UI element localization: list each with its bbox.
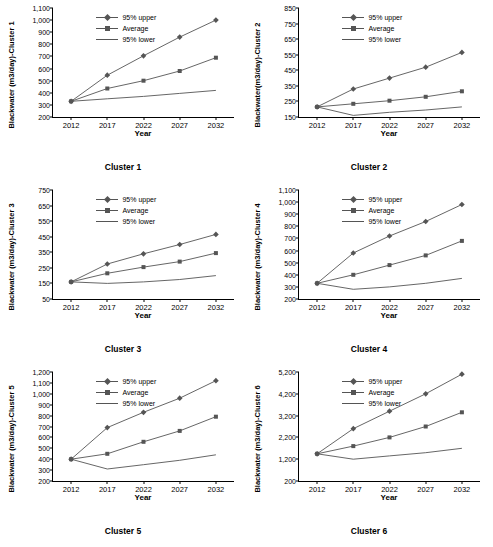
marker-diamond — [459, 371, 465, 377]
series-line-3 — [71, 455, 216, 469]
chart-caption: Cluster 3 — [0, 344, 246, 354]
marker-square — [388, 263, 392, 267]
legend-item: 95% upper — [96, 12, 156, 23]
marker-square — [460, 410, 464, 414]
marker-square — [142, 440, 146, 444]
chart-cell-3: Blackwater (m3/day)-Cluster 3 5015025035… — [0, 182, 246, 364]
marker-diamond — [104, 261, 110, 267]
x-tick-mark — [353, 299, 354, 302]
legend-item: Average — [342, 387, 402, 398]
y-axis-label: Blackwater (m3/day)-Cluster 4 — [252, 188, 264, 326]
marker-diamond — [459, 202, 465, 208]
legend-swatch-diamond-icon — [96, 195, 118, 204]
x-tick-mark — [317, 117, 318, 120]
legend-swatch-square-icon — [96, 388, 118, 397]
legend-item: 95% upper — [342, 376, 402, 387]
legend: 95% upperAverage95% lower — [342, 12, 402, 45]
legend-swatch-diamond-icon — [342, 377, 364, 386]
x-tick-mark — [461, 481, 462, 484]
legend-swatch-square-icon — [342, 206, 364, 215]
marker-square — [214, 251, 218, 255]
x-axis-label: Year — [52, 311, 234, 320]
legend-swatch-square-icon — [96, 206, 118, 215]
x-tick-mark — [71, 481, 72, 484]
x-tick-mark — [179, 299, 180, 302]
legend-label: Average — [122, 23, 148, 34]
series-line-2 — [317, 412, 462, 454]
plot-area: 2003004005006007008009001,0001,100201220… — [52, 8, 234, 118]
x-axis-label: Year — [298, 493, 480, 502]
legend-label: 95% upper — [368, 376, 402, 387]
chart-cell-5: Blackwater (m3/day)-Cluster 5 2003004005… — [0, 364, 246, 546]
legend: 95% upperAverage95% lower — [96, 12, 156, 45]
legend-label: 95% upper — [368, 12, 402, 23]
legend-label: 95% upper — [122, 376, 156, 387]
marker-square — [214, 415, 218, 419]
legend-label: Average — [122, 387, 148, 398]
legend-swatch-diamond-icon — [342, 195, 364, 204]
chart-caption: Cluster 4 — [246, 344, 492, 354]
chart-caption: Cluster 6 — [246, 526, 492, 536]
marker-square — [424, 253, 428, 257]
legend-label: 95% lower — [122, 216, 155, 227]
marker-diamond — [423, 219, 429, 225]
legend-label: Average — [368, 23, 394, 34]
x-tick-mark — [143, 481, 144, 484]
chart-panel-cluster-3: Blackwater (m3/day)-Cluster 3 5015025035… — [6, 188, 238, 326]
chart-cell-6: Blackwater (m3/day)-Cluster 6 2001,2002,… — [246, 364, 492, 546]
legend-item: 95% lower — [96, 216, 156, 227]
x-tick-mark — [461, 299, 462, 302]
legend-swatch-square-icon — [342, 24, 364, 33]
x-tick-mark — [71, 117, 72, 120]
legend-item: 95% lower — [342, 216, 402, 227]
x-tick-mark — [389, 117, 390, 120]
chart-panel-cluster-6: Blackwater (m3/day)-Cluster 6 2001,2002,… — [252, 370, 484, 508]
legend: 95% upperAverage95% lower — [96, 194, 156, 227]
x-tick-mark — [389, 481, 390, 484]
marker-diamond — [177, 34, 183, 40]
legend-swatch-none-icon — [96, 217, 118, 226]
legend-swatch-none-icon — [342, 35, 364, 44]
marker-diamond — [177, 395, 183, 401]
marker-square — [351, 444, 355, 448]
legend-item: 95% upper — [342, 194, 402, 205]
legend-item: 95% lower — [342, 398, 402, 409]
y-axis-label: Blackwater (m3/day)-Cluster 6 — [252, 370, 264, 508]
x-tick-mark — [215, 117, 216, 120]
x-tick-mark — [107, 117, 108, 120]
legend-swatch-square-icon — [96, 24, 118, 33]
legend-item: 95% lower — [96, 34, 156, 45]
legend-swatch-none-icon — [342, 217, 364, 226]
legend-label: Average — [368, 205, 394, 216]
marker-diamond — [213, 232, 219, 238]
marker-square — [142, 265, 146, 269]
marker-diamond — [350, 86, 356, 92]
legend-label: 95% lower — [368, 34, 401, 45]
legend-label: 95% lower — [122, 398, 155, 409]
marker-square — [105, 271, 109, 275]
x-tick-mark — [71, 299, 72, 302]
x-axis-label: Year — [52, 493, 234, 502]
legend: 95% upperAverage95% lower — [96, 376, 156, 409]
marker-square — [388, 99, 392, 103]
plot-area: 2003004005006007008009001,0001,100201220… — [298, 190, 480, 300]
legend-label: 95% lower — [368, 216, 401, 227]
marker-diamond — [141, 251, 147, 257]
x-tick-mark — [389, 299, 390, 302]
y-axis-label: Blackwater (m3/day)-Cluster 3 — [6, 188, 18, 326]
legend-swatch-diamond-icon — [96, 13, 118, 22]
marker-diamond — [141, 409, 147, 415]
marker-diamond — [213, 17, 219, 23]
chart-grid: Blackwater (m3/day)-Cluster 1 2003004005… — [0, 0, 493, 547]
legend-item: 95% upper — [342, 12, 402, 23]
x-tick-mark — [425, 299, 426, 302]
marker-square — [178, 69, 182, 73]
legend-swatch-none-icon — [96, 399, 118, 408]
marker-diamond — [423, 391, 429, 397]
legend-label: 95% upper — [368, 194, 402, 205]
x-tick-mark — [425, 117, 426, 120]
legend-item: Average — [96, 387, 156, 398]
plot-area: 2001,2002,2003,2004,2005,200201220172022… — [298, 372, 480, 482]
marker-diamond — [387, 75, 393, 81]
marker-diamond — [177, 242, 183, 248]
